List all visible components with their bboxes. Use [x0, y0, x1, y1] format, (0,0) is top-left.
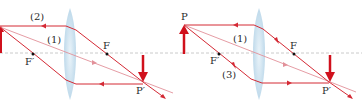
ray-1-arrow [92, 60, 97, 65]
ray-1-label: (1) [233, 34, 247, 44]
ray-2-arrow [233, 23, 238, 28]
ray-2-arrow [41, 24, 46, 29]
left-diagram [0, 8, 181, 100]
ray-1-label: (1) [47, 35, 61, 45]
ray-2-label: (2) [30, 12, 44, 22]
image-point-label: P′ [322, 86, 331, 96]
object-point-label: P [181, 12, 188, 22]
right-diagram [179, 8, 362, 100]
focus-label: F [290, 41, 297, 51]
ray-3-arrow [99, 82, 104, 87]
ray-3-arrow [231, 62, 236, 69]
ray-1-arrow [283, 62, 288, 67]
focus-label: F [103, 41, 110, 51]
image-point-label: P′ [136, 86, 145, 96]
focus-prime-label: F′ [25, 57, 34, 67]
focus-prime-label: F′ [210, 56, 219, 66]
ray-3-label: (3) [222, 70, 236, 80]
focus-point [293, 53, 296, 56]
focus-point [106, 53, 109, 56]
ray-3-flat-arrow [287, 81, 292, 86]
